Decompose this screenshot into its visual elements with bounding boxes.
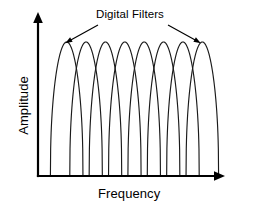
y-axis (33, 12, 43, 176)
x-axis (38, 171, 225, 181)
annotation-leader-right (168, 25, 201, 43)
y-axis-arrowhead (33, 12, 43, 23)
filter-curves-group (50, 42, 218, 176)
leader-line-left (69, 25, 98, 41)
leader-arrowhead-left (65, 37, 72, 43)
x-axis-label: Frequency (98, 186, 160, 201)
annotation-leader-left (65, 25, 98, 43)
plot-canvas (0, 0, 253, 213)
x-axis-arrowhead (214, 171, 225, 181)
leader-arrowhead-right (193, 37, 200, 43)
leader-line-right (168, 25, 197, 41)
y-axis-label: Amplitude (16, 66, 31, 146)
digital-filters-figure: Digital Filters Frequency Amplitude (0, 0, 253, 213)
digital-filters-annotation-label: Digital Filters (96, 8, 164, 20)
